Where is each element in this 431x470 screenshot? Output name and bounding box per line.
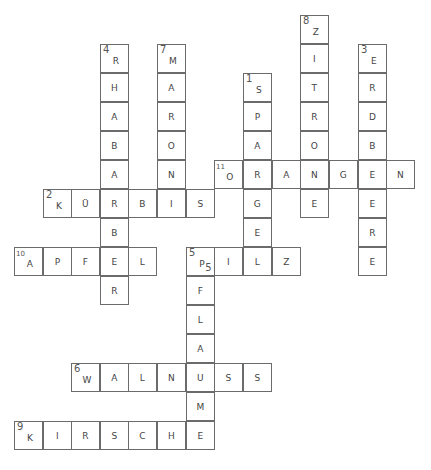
crossword-cell[interactable]: E — [300, 189, 329, 218]
crossword-cell[interactable]: A — [100, 102, 129, 131]
crossword-cell[interactable]: U — [186, 363, 215, 392]
crossword-cell[interactable]: S — [100, 421, 129, 450]
cell-letter: I — [158, 199, 185, 209]
crossword-cell[interactable]: 6W — [71, 363, 100, 392]
crossword-cell[interactable]: 8Z — [300, 15, 329, 44]
crossword-cell[interactable]: L — [186, 305, 215, 334]
cell-letter: R — [72, 431, 99, 441]
crossword-cell[interactable]: L — [128, 363, 157, 392]
cell-letter: A — [18, 259, 42, 269]
crossword-cell[interactable]: I — [214, 247, 243, 276]
cell-letter: P — [190, 259, 214, 269]
cell-letter: R — [101, 286, 128, 296]
crossword-cell[interactable]: I — [157, 189, 186, 218]
crossword-cell[interactable]: G — [329, 160, 358, 189]
crossword-cell[interactable]: A — [100, 160, 129, 189]
crossword-cell[interactable]: B — [358, 131, 387, 160]
cell-letter: R — [301, 112, 328, 122]
crossword-cell[interactable]: A — [186, 334, 215, 363]
crossword-cell[interactable]: D — [358, 102, 387, 131]
crossword-cell[interactable]: L — [243, 247, 272, 276]
cell-letter: D — [359, 112, 386, 122]
crossword-cell[interactable]: S — [214, 363, 243, 392]
cell-letter: U — [187, 373, 214, 383]
cell-letter: W — [75, 375, 99, 385]
crossword-cell[interactable]: I — [300, 44, 329, 73]
crossword-cell[interactable]: G — [243, 189, 272, 218]
crossword-cell[interactable]: R — [243, 160, 272, 189]
crossword-cell[interactable]: 3E — [358, 44, 387, 73]
crossword-cell[interactable]: F — [71, 247, 100, 276]
crossword-cell[interactable]: 2K — [43, 189, 72, 218]
crossword-cell[interactable]: H — [100, 73, 129, 102]
crossword-cell[interactable]: E — [358, 247, 387, 276]
cell-letter: P — [44, 257, 71, 267]
crossword-cell[interactable]: S — [186, 189, 215, 218]
crossword-cell[interactable]: O — [157, 131, 186, 160]
crossword-cell[interactable]: A — [243, 131, 272, 160]
crossword-cell[interactable]: R — [300, 102, 329, 131]
crossword-cell[interactable]: N — [157, 160, 186, 189]
cell-letter: N — [387, 170, 414, 180]
crossword-cell[interactable]: L — [128, 247, 157, 276]
crossword-cell[interactable]: R — [358, 73, 387, 102]
crossword-cell[interactable]: 55P — [186, 247, 215, 276]
cell-letter: G — [244, 199, 271, 209]
crossword-cell[interactable]: E — [100, 247, 129, 276]
cell-letter: K — [18, 433, 42, 443]
crossword-cell[interactable]: B — [128, 189, 157, 218]
clue-number: 2 — [46, 190, 52, 200]
cell-letter: Z — [273, 257, 300, 267]
crossword-cell[interactable]: R — [358, 218, 387, 247]
crossword-cell[interactable]: 9K — [14, 421, 43, 450]
crossword-cell[interactable]: S — [243, 363, 272, 392]
crossword-cell[interactable]: 1S — [243, 73, 272, 102]
cell-letter: K — [47, 201, 71, 211]
crossword-cell[interactable]: 10A — [14, 247, 43, 276]
cell-letter: T — [301, 83, 328, 93]
clue-number: 8 — [303, 16, 309, 26]
crossword-cell[interactable]: 11O — [214, 160, 243, 189]
cell-letter: A — [101, 170, 128, 180]
crossword-cell[interactable]: M — [186, 392, 215, 421]
crossword-cell[interactable]: 7M — [157, 44, 186, 73]
cell-letter: B — [129, 199, 156, 209]
cell-letter: E — [101, 257, 128, 267]
crossword-cell[interactable]: C — [128, 421, 157, 450]
cell-letter: E — [301, 199, 328, 209]
crossword-cell[interactable]: 4R — [100, 44, 129, 73]
crossword-cell[interactable]: P — [43, 247, 72, 276]
crossword-cell[interactable]: N — [300, 160, 329, 189]
crossword-cell[interactable]: F — [186, 276, 215, 305]
crossword-cell[interactable]: E — [186, 421, 215, 450]
crossword-cell[interactable]: H — [157, 421, 186, 450]
crossword-cell[interactable]: A — [157, 73, 186, 102]
crossword-cell[interactable]: N — [157, 363, 186, 392]
crossword-cell[interactable]: B — [100, 131, 129, 160]
crossword-cell[interactable]: A — [100, 363, 129, 392]
cell-letter: L — [244, 257, 271, 267]
cell-letter: H — [101, 83, 128, 93]
cell-letter: E — [187, 431, 214, 441]
crossword-cell[interactable]: E — [358, 189, 387, 218]
cell-letter: L — [129, 257, 156, 267]
crossword-cell[interactable]: E — [243, 218, 272, 247]
cell-letter: H — [158, 431, 185, 441]
crossword-cell[interactable]: R — [100, 276, 129, 305]
crossword-cell[interactable]: R — [100, 189, 129, 218]
cell-letter: C — [129, 431, 156, 441]
crossword-cell[interactable]: R — [157, 102, 186, 131]
crossword-cell[interactable]: P — [243, 102, 272, 131]
crossword-cell[interactable]: O — [300, 131, 329, 160]
crossword-cell[interactable]: A — [272, 160, 301, 189]
crossword-cell[interactable]: E — [358, 160, 387, 189]
cell-letter: S — [187, 199, 214, 209]
cell-letter: N — [301, 170, 328, 180]
crossword-cell[interactable]: Ü — [71, 189, 100, 218]
crossword-cell[interactable]: R — [71, 421, 100, 450]
crossword-cell[interactable]: N — [386, 160, 415, 189]
crossword-cell[interactable]: B — [100, 218, 129, 247]
crossword-cell[interactable]: Z — [272, 247, 301, 276]
crossword-cell[interactable]: I — [43, 421, 72, 450]
crossword-cell[interactable]: T — [300, 73, 329, 102]
